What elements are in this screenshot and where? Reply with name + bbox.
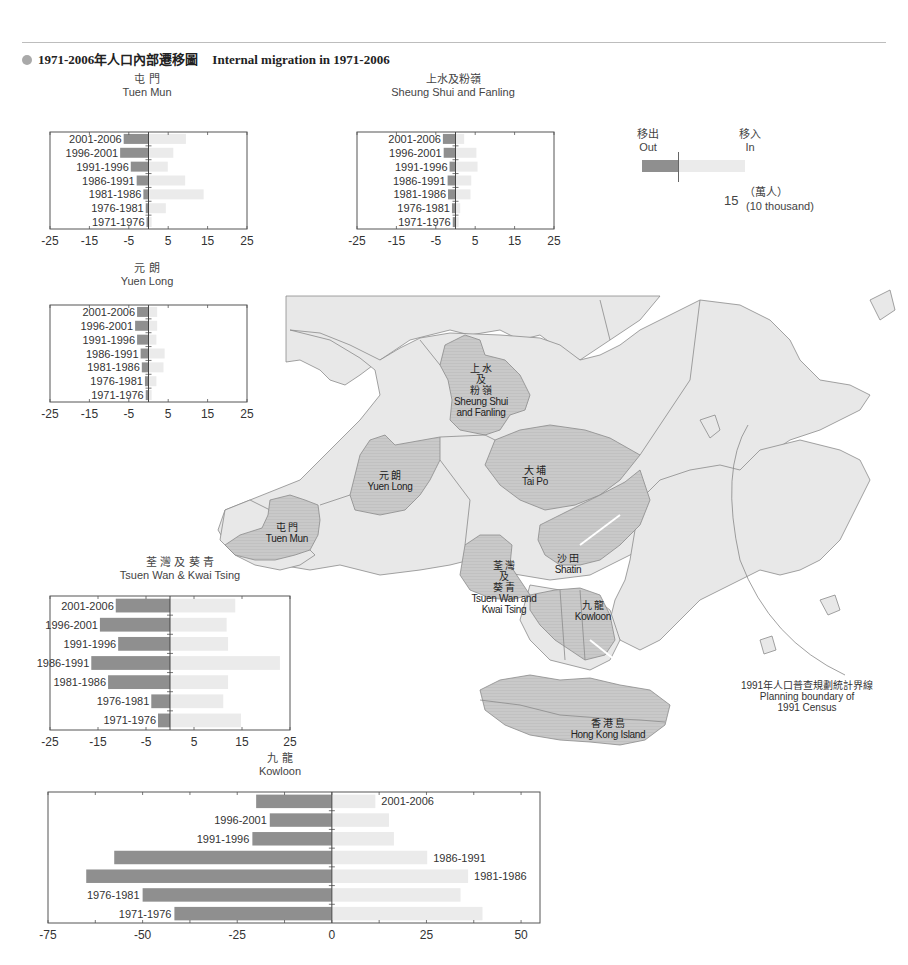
chart-title-tuen_mun: 屯 門Tuen Mun <box>47 73 247 99</box>
chart-title-en: Tsuen Wan & Kwai Tsing <box>80 569 280 582</box>
chart-title-zh: 九 龍 <box>180 752 380 765</box>
chart-title-en: Sheung Shui and Fanling <box>353 86 553 99</box>
legend-unit-zh: （萬人） <box>744 186 788 199</box>
map-label-census-boundary: 1991年人口普查規劃統計界線 Planning boundary of 199… <box>732 680 882 713</box>
map-label-yuen-long: 元 朗 Yuen Long <box>360 470 420 492</box>
map-island <box>820 595 840 615</box>
legend-zero-line <box>678 152 679 182</box>
chart-title-sheung_shui: 上水及粉嶺Sheung Shui and Fanling <box>353 73 553 99</box>
legend-in-swatch <box>679 160 745 172</box>
legend-unit-en: (10 thousand) <box>746 200 814 213</box>
chart-title-zh: 屯 門 <box>47 73 247 86</box>
chart-title-zh: 上水及粉嶺 <box>353 73 553 86</box>
map-label-tuen-mun: 屯 門 Tuen Mun <box>262 522 312 544</box>
chart-title-en: Yuen Long <box>47 275 247 288</box>
map-label-tai-po: 大 埔 Tai Po <box>510 465 560 487</box>
chart-title-yuen_long: 元 朗Yuen Long <box>47 262 247 288</box>
chart-title-zh: 荃 灣 及 葵 青 <box>80 556 280 569</box>
legend-scale-value: 15 <box>724 194 738 207</box>
map-label-sheung-shui: 上 水 及 粉 嶺 Sheung Shui and Fanling <box>446 363 516 418</box>
chart-title-kowloon: 九 龍Kowloon <box>180 752 380 778</box>
map-label-kowloon: 九 龍 Kowloon <box>568 600 618 622</box>
chart-title-zh: 元 朗 <box>47 262 247 275</box>
legend: 移出 Out 移入 In 15 （萬人） (10 thousand) <box>610 128 810 218</box>
map-label-tsuen-wan: 荃 灣 及 葵 青 Tsuen Wan and Kwai Tsing <box>468 560 540 615</box>
map-label-shatin: 沙 田 Shatin <box>548 553 588 575</box>
map-label-hong-kong-island: 香 港 島 Hong Kong Island <box>568 718 648 740</box>
map-island <box>870 290 895 320</box>
chart-title-tsuen_wan: 荃 灣 及 葵 青Tsuen Wan & Kwai Tsing <box>80 556 280 582</box>
map-island <box>760 636 776 654</box>
legend-out-swatch <box>642 160 679 172</box>
chart-title-en: Tuen Mun <box>47 86 247 99</box>
legend-in-label: 移入 In <box>730 128 770 154</box>
chart-title-en: Kowloon <box>180 765 380 778</box>
legend-out-label: 移出 Out <box>628 128 668 154</box>
